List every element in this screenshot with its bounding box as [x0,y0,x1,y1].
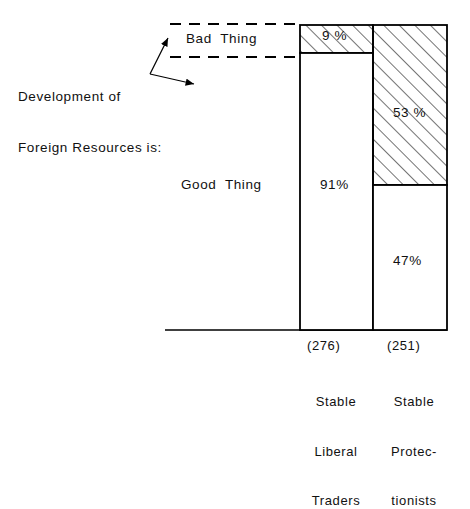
axis-label-right-line2: Protec- [374,444,454,461]
axis-label-left: Stable Liberal Traders [298,361,374,509]
axis-label-left-line1: Stable [298,394,374,411]
axis-label-left-line2: Liberal [298,444,374,461]
count-label-right: (251) [387,338,420,353]
axis-label-right: Stable Protec- tionists [374,361,454,509]
source-annotation: Development of Foreign Resources is: [18,54,162,190]
source-annotation-line2: Foreign Resources is: [18,139,162,156]
legend-label-bad-thing: Bad Thing [186,31,257,46]
legend-label-good-thing: Good Thing [181,177,262,192]
value-label-right-bad: 53 % [393,105,426,120]
axis-label-right-line3: tionists [374,493,454,509]
axis-label-left-line3: Traders [298,493,374,509]
value-label-left-good: 91% [320,177,349,192]
value-label-right-good: 47% [393,253,422,268]
value-label-left-bad: 9 % [322,28,347,43]
axis-label-right-line1: Stable [374,394,454,411]
count-label-left: (276) [307,338,340,353]
source-annotation-line1: Development of [18,88,162,105]
